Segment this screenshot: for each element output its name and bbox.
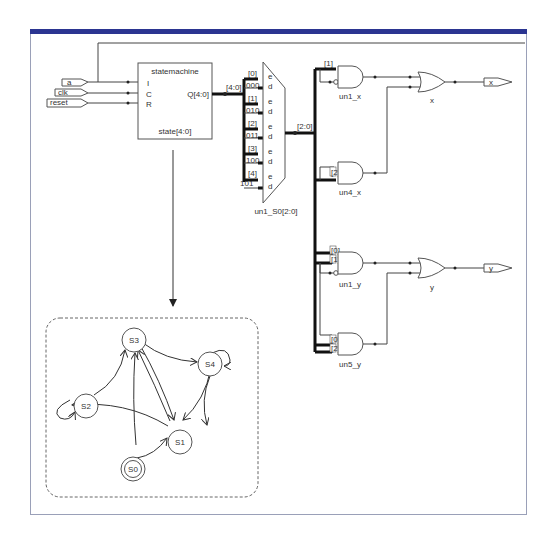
- and-gate-shape: [338, 252, 363, 274]
- svg-text:[1]: [1]: [324, 59, 333, 68]
- state-s0-initial[interactable]: S0: [121, 457, 145, 481]
- statemachine-title: statemachine: [151, 67, 199, 76]
- output-port-y[interactable]: y: [484, 264, 512, 273]
- pin-r: R: [146, 100, 152, 109]
- svg-text:101: 101: [240, 179, 254, 188]
- svg-text:S4: S4: [205, 360, 215, 369]
- svg-text:010: 010: [246, 106, 260, 115]
- state-s4[interactable]: S4: [198, 352, 222, 376]
- svg-text:d: d: [268, 107, 272, 116]
- svg-text:e: e: [268, 72, 273, 81]
- input-port-clk[interactable]: clk: [55, 88, 88, 97]
- svg-text:e: e: [268, 172, 273, 181]
- mux-output-label: [2:0]: [297, 122, 313, 131]
- gate-label: un4_x: [339, 188, 361, 197]
- state-s2[interactable]: S2: [74, 394, 98, 418]
- svg-text:S0: S0: [128, 465, 138, 474]
- q-bus-label: [4:0]: [226, 83, 242, 92]
- state-s3[interactable]: S3: [122, 328, 146, 352]
- pin-i: I: [147, 79, 149, 88]
- svg-text:d: d: [268, 132, 272, 141]
- gate-or-y[interactable]: y: [418, 258, 445, 292]
- svg-text:[2]: [2]: [248, 119, 257, 128]
- svg-text:[1]: [1]: [248, 94, 257, 103]
- svg-text:d: d: [268, 82, 272, 91]
- svg-text:d: d: [268, 157, 272, 166]
- svg-text:[0]: [0]: [248, 69, 257, 78]
- output-port-x[interactable]: x: [484, 78, 512, 87]
- statemachine-block[interactable]: statemachine I C R Q[4:0] state[4:0]: [138, 63, 212, 139]
- and-gate-shape: [338, 162, 363, 184]
- gate-un1-y[interactable]: [0] [1] un1_y: [315, 246, 363, 289]
- svg-text:[3]: [3]: [248, 144, 257, 153]
- output-y-label: y: [489, 264, 493, 273]
- pin-c: C: [146, 90, 152, 99]
- svg-text:100: 100: [246, 156, 260, 165]
- state-label: state[4:0]: [159, 127, 192, 136]
- gate-un5-y[interactable]: [0] [2] un5_y: [315, 263, 363, 369]
- svg-text:e: e: [268, 97, 273, 106]
- mux-name-label: un1_S0[2:0]: [254, 207, 297, 216]
- svg-text:S1: S1: [175, 438, 185, 447]
- input-port-a[interactable]: a: [62, 78, 88, 87]
- input-port-shape: [62, 79, 88, 86]
- svg-text:d: d: [268, 182, 272, 191]
- output-x-label: x: [489, 78, 493, 87]
- gate-label: un1_x: [339, 92, 361, 101]
- pin-q: Q[4:0]: [187, 90, 209, 99]
- state-s1[interactable]: S1: [168, 430, 192, 454]
- input-port-reset[interactable]: reset: [47, 98, 88, 107]
- svg-text:S3: S3: [129, 336, 139, 345]
- gate-label: x: [430, 96, 434, 105]
- gate-or-x[interactable]: x: [418, 72, 445, 105]
- mux-shape: [263, 62, 285, 203]
- input-reset-label: reset: [50, 98, 69, 107]
- or-gate-shape: [418, 258, 445, 278]
- input-wires: [88, 82, 138, 103]
- or-gate-shape: [418, 72, 445, 92]
- svg-text:S2: S2: [81, 402, 91, 411]
- gate-label: un1_y: [339, 280, 361, 289]
- mux-port-labels: ed ed ed ed ed: [268, 72, 273, 191]
- input-a-label: a: [67, 78, 72, 87]
- gate-un1-x[interactable]: [1] un1_x: [315, 59, 363, 101]
- and-gate-shape: [338, 333, 363, 355]
- svg-text:e: e: [268, 147, 273, 156]
- input-clk-label: clk: [58, 88, 69, 97]
- svg-text:011: 011: [246, 131, 259, 140]
- and-gate-shape: [338, 66, 363, 88]
- svg-text:000: 000: [246, 81, 260, 90]
- schematic-canvas: a clk reset statemachine I C R Q[4:0] st…: [0, 0, 550, 539]
- gate-label: un5_y: [339, 360, 361, 369]
- svg-text:e: e: [268, 122, 273, 131]
- gate-un4-x[interactable]: [2] un4_x: [315, 162, 363, 197]
- gate-label: y: [430, 283, 434, 292]
- svg-text:[4]: [4]: [248, 169, 257, 178]
